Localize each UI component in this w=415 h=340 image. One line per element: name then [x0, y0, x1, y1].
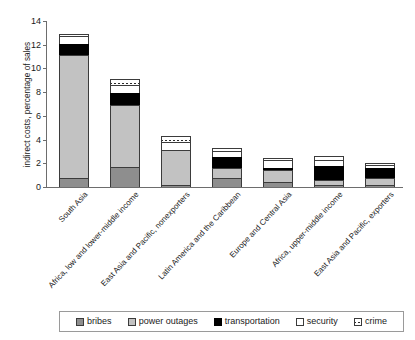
legend-item[interactable]: transportation	[214, 317, 280, 326]
power-outages-swatch-icon	[128, 318, 136, 326]
bar-stack[interactable]	[263, 158, 293, 187]
bar-segment-bribes[interactable]	[212, 178, 242, 187]
bar-segment-power-outages[interactable]	[110, 105, 140, 167]
security-swatch-icon	[296, 318, 304, 326]
y-axis-tick-label: 6	[36, 111, 41, 120]
bar-segment-crime[interactable]	[212, 148, 242, 152]
bar-stack[interactable]	[161, 136, 191, 187]
bar-segment-transportation[interactable]	[314, 166, 344, 180]
bar-stack[interactable]	[314, 156, 344, 187]
bar-segment-crime[interactable]	[365, 163, 395, 165]
bar-segment-crime[interactable]	[110, 79, 140, 85]
bar-segment-crime[interactable]	[263, 158, 293, 160]
bar-segment-security[interactable]	[365, 165, 395, 169]
bar-segment-power-outages[interactable]	[263, 170, 293, 182]
y-axis-tick-label: 8	[36, 88, 41, 97]
legend-item-label: security	[307, 317, 338, 326]
bar-stack[interactable]	[59, 34, 89, 187]
bar-segment-transportation[interactable]	[365, 168, 395, 177]
chart-legend: bribespower outagestransportationsecurit…	[59, 311, 404, 332]
x-axis-category-label: Latin America and the Caribbean	[157, 190, 243, 281]
bar-segment-bribes[interactable]	[314, 185, 344, 187]
x-axis-category-label: Africa, low and lower-middle income	[47, 190, 141, 290]
bar-segment-security[interactable]	[314, 160, 344, 166]
bar-segment-bribes[interactable]	[263, 182, 293, 187]
legend-item[interactable]: security	[296, 317, 338, 326]
bar-segment-power-outages[interactable]	[212, 168, 242, 177]
bar-segment-power-outages[interactable]	[161, 150, 191, 184]
legend-item-label: power outages	[139, 317, 198, 326]
bar-segment-bribes[interactable]	[365, 185, 395, 187]
bar-segment-transportation[interactable]	[263, 168, 293, 170]
bar-segment-power-outages[interactable]	[314, 180, 344, 185]
y-axis-tick-mark	[43, 187, 47, 188]
bar-segment-transportation[interactable]	[110, 93, 140, 105]
bar-segment-security[interactable]	[110, 85, 140, 93]
bar-segment-power-outages[interactable]	[59, 55, 89, 177]
y-axis-tick-label: 2	[36, 159, 41, 168]
x-axis-category-label: East Asia and Pacific, nonexporters	[99, 190, 191, 288]
bar-segment-security[interactable]	[59, 36, 89, 43]
bar-stack[interactable]	[365, 163, 395, 188]
y-axis-tick-label: 14	[31, 17, 41, 26]
y-axis-tick-label: 10	[31, 64, 41, 73]
legend-item[interactable]: bribes	[76, 317, 112, 326]
legend-item-label: bribes	[87, 317, 112, 326]
transportation-swatch-icon	[214, 318, 222, 326]
crime-swatch-icon	[354, 318, 362, 326]
plot-area: 02468101214	[46, 21, 403, 188]
bar-segment-bribes[interactable]	[110, 167, 140, 187]
bar-group	[47, 21, 403, 187]
x-axis-labels: South AsiaAfrica, low and lower-middle i…	[46, 190, 402, 302]
x-axis-category-label: South Asia	[57, 190, 90, 224]
bar-segment-transportation[interactable]	[212, 157, 242, 168]
bar-segment-bribes[interactable]	[161, 185, 191, 187]
bar-segment-power-outages[interactable]	[365, 178, 395, 185]
bar-segment-security[interactable]	[263, 160, 293, 168]
bar-segment-crime[interactable]	[161, 136, 191, 142]
bar-segment-security[interactable]	[161, 142, 191, 150]
legend-item-label: transportation	[225, 317, 280, 326]
bar-segment-crime[interactable]	[314, 156, 344, 160]
bar-stack[interactable]	[212, 148, 242, 187]
y-axis-tick-label: 0	[36, 183, 41, 192]
bar-segment-crime[interactable]	[59, 34, 89, 36]
bar-segment-transportation[interactable]	[59, 44, 89, 56]
y-axis-tick-label: 4	[36, 135, 41, 144]
bribes-swatch-icon	[76, 318, 84, 326]
bar-segment-bribes[interactable]	[59, 178, 89, 187]
legend-item-label: crime	[365, 317, 387, 326]
legend-item[interactable]: crime	[354, 317, 387, 326]
legend-item[interactable]: power outages	[128, 317, 198, 326]
stacked-bar-chart: indirect costs, percentage of sales 0246…	[0, 0, 415, 340]
bar-segment-security[interactable]	[212, 151, 242, 157]
y-axis-tick-label: 12	[31, 40, 41, 49]
bar-stack[interactable]	[110, 79, 140, 187]
